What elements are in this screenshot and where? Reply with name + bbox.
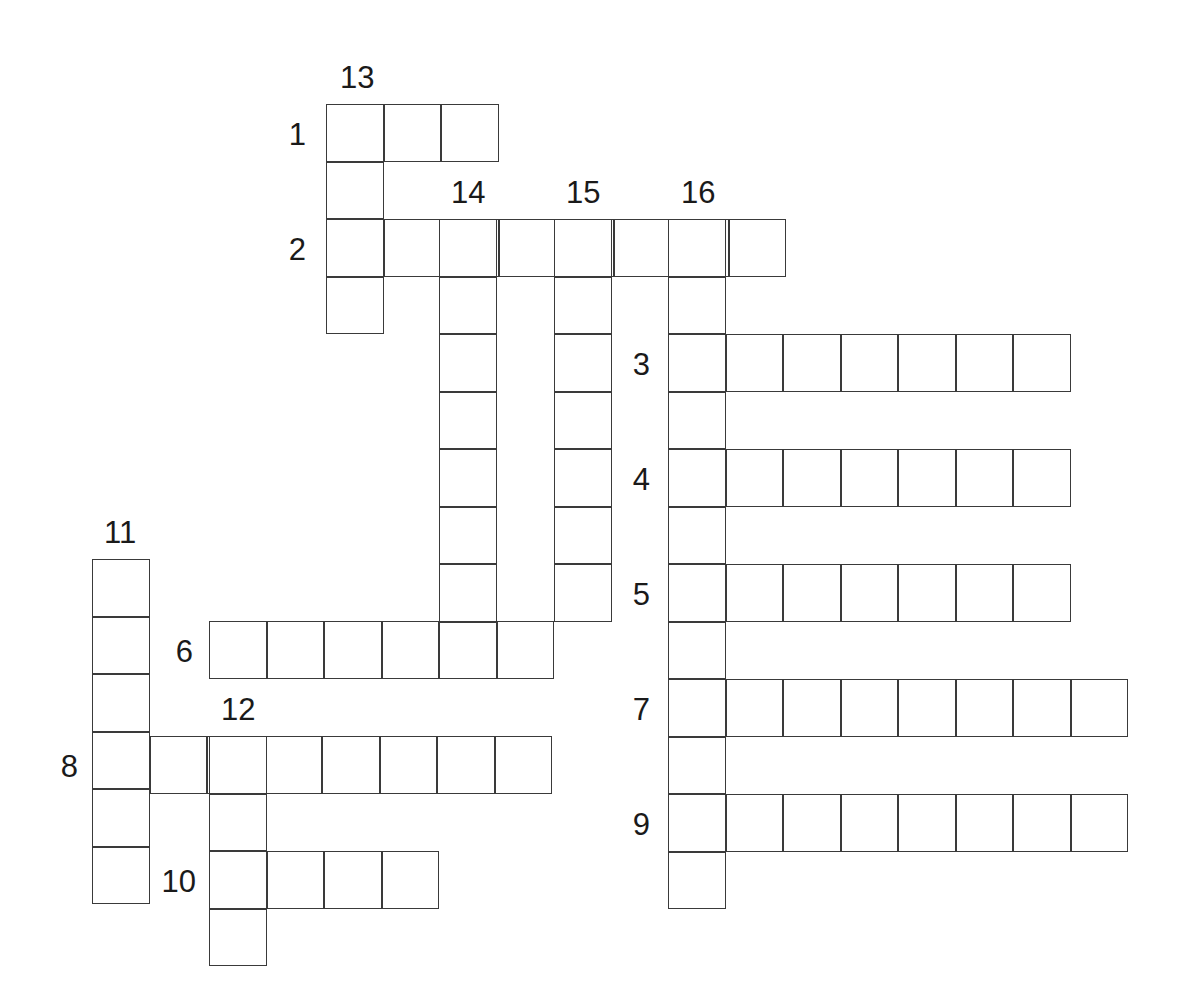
clue-number-8: 8 xyxy=(61,751,78,782)
clue-number-2: 2 xyxy=(289,234,306,265)
clue-number-10: 10 xyxy=(162,866,196,897)
clue-number-7: 7 xyxy=(633,694,650,725)
clue-number-16: 16 xyxy=(681,177,715,208)
clue-number-9: 9 xyxy=(633,809,650,840)
clue-number-4: 4 xyxy=(633,464,650,495)
clue-number-layer: 12345678910111213141516 xyxy=(0,0,1197,996)
clue-number-6: 6 xyxy=(176,636,193,667)
clue-number-11: 11 xyxy=(104,517,136,548)
crossword-puzzle: 12345678910111213141516 xyxy=(0,0,1197,996)
clue-number-5: 5 xyxy=(633,579,650,610)
clue-number-3: 3 xyxy=(633,349,650,380)
clue-number-12: 12 xyxy=(221,694,255,725)
clue-number-1: 1 xyxy=(289,119,306,150)
clue-number-13: 13 xyxy=(340,62,374,93)
clue-number-14: 14 xyxy=(451,177,485,208)
clue-number-15: 15 xyxy=(566,177,600,208)
